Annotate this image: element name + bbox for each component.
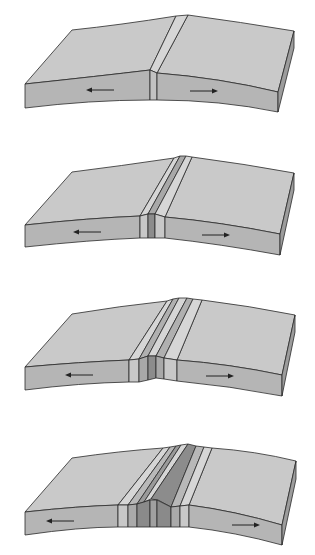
spreading-stage-3 bbox=[0, 280, 315, 420]
block-diagram-4 bbox=[0, 415, 315, 555]
spreading-stage-1 bbox=[0, 0, 315, 140]
block-diagram-2 bbox=[0, 140, 315, 280]
spreading-stage-2 bbox=[0, 140, 315, 280]
spreading-stage-4 bbox=[0, 415, 315, 555]
block-diagram-3 bbox=[0, 280, 315, 420]
block-diagram-1 bbox=[0, 0, 315, 140]
